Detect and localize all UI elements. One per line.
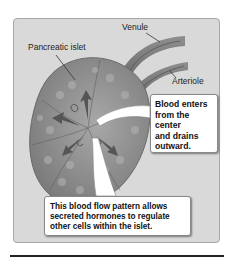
callout-line: and drains <box>155 131 213 142</box>
callout-blood-flow: Blood enters from the center and drains … <box>150 94 218 153</box>
label-pancreatic-islet: Pancreatic islet <box>28 42 86 52</box>
callout-line: other cells within the islet. <box>50 222 185 232</box>
callout-line: from the <box>155 110 213 121</box>
callout-line: outward. <box>155 141 213 152</box>
callout-line: This blood flow pattern allows <box>50 202 185 212</box>
venule-leader-line <box>146 33 160 42</box>
callout-line: center <box>155 120 213 131</box>
callout-line: secreted hormones to regulate <box>50 212 185 222</box>
label-arteriole: Arteriole <box>172 76 204 86</box>
label-venule: Venule <box>122 22 148 32</box>
callout-line: Blood enters <box>155 99 213 110</box>
divider-rule <box>10 255 224 257</box>
callout-hormones: This blood flow pattern allows secreted … <box>44 196 191 236</box>
